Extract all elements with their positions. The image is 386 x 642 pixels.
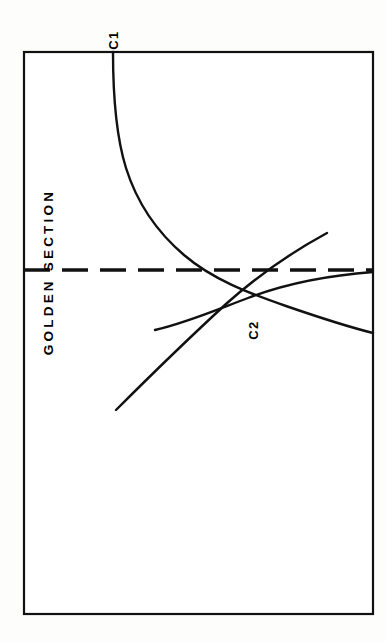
golden-section-axis-label: GOLDEN SECTION: [41, 189, 56, 355]
figure-canvas: [0, 0, 386, 642]
curve-label-c2: C2: [246, 320, 261, 339]
plot-frame: [24, 52, 373, 614]
curve-label-c1: C1: [106, 30, 121, 49]
golden-section-figure: GOLDEN SECTION C1 C2: [0, 0, 386, 642]
